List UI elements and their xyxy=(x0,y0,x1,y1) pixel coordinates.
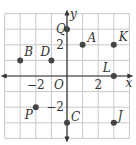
y-axis-arrow-up-icon xyxy=(65,10,70,16)
point-label-a: A xyxy=(87,31,97,45)
point-label-c: C xyxy=(71,110,80,124)
x-axis-label: x xyxy=(125,76,132,90)
point-k xyxy=(111,42,117,48)
point-c xyxy=(64,120,70,126)
point-b xyxy=(17,57,23,63)
y-tick-label: 2 xyxy=(56,38,64,52)
point-label-b: B xyxy=(23,45,33,59)
y-axis-label: y xyxy=(69,7,77,21)
coordinate-plane: xyO−222−2 QAKBDLPCJ xyxy=(0,0,136,145)
point-a xyxy=(80,42,86,48)
point-p xyxy=(33,104,39,110)
points: QAKBDLPCJ xyxy=(17,22,129,126)
point-label-q: Q xyxy=(56,22,66,36)
origin-label: O xyxy=(54,78,64,92)
point-l xyxy=(111,73,117,79)
y-axis-arrow-down-icon xyxy=(65,136,70,142)
x-tick-label: −2 xyxy=(27,78,45,92)
point-label-j: J xyxy=(115,109,124,123)
point-label-k: K xyxy=(118,30,129,44)
y-tick-label: −2 xyxy=(46,100,64,114)
point-j xyxy=(111,120,117,126)
x-tick-label: 2 xyxy=(94,78,102,92)
x-axis-arrow-left-icon xyxy=(1,74,7,79)
point-label-d: D xyxy=(39,45,50,59)
point-label-p: P xyxy=(24,108,34,122)
point-label-l: L xyxy=(102,61,111,75)
